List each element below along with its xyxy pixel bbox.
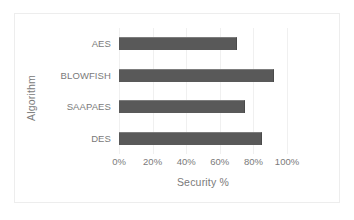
bar — [119, 37, 237, 50]
bar-row — [119, 123, 287, 155]
bar — [119, 132, 262, 145]
y-axis-tick-label: DES — [48, 123, 116, 155]
x-axis-tick-label: 100% — [275, 156, 299, 167]
x-axis-tick-label: 20% — [143, 156, 162, 167]
y-axis-tick-labels: AES BLOWFISH SAAPAES DES — [48, 28, 116, 154]
plot-area — [119, 28, 287, 154]
x-axis-tick-label: 40% — [177, 156, 196, 167]
bar — [119, 100, 245, 113]
x-axis-tick-labels: 0%20%40%60%80%100% — [119, 156, 287, 170]
y-axis-tick-label: AES — [48, 28, 116, 60]
y-axis-tick-label: BLOWFISH — [48, 60, 116, 92]
x-axis-tick-label: 60% — [210, 156, 229, 167]
y-axis-tick-label: SAAPAES — [48, 91, 116, 123]
bar — [119, 69, 274, 82]
x-axis-title: Security % — [119, 176, 287, 188]
bar-row — [119, 60, 287, 92]
x-axis-tick-label: 80% — [244, 156, 263, 167]
bar-chart: Algorithm AES BLOWFISH SAAPAES DES 0%20%… — [0, 0, 354, 220]
bar-row — [119, 91, 287, 123]
y-axis-title: Algorithm — [25, 48, 41, 148]
bar-series — [119, 28, 287, 154]
x-axis-tick-label: 0% — [112, 156, 126, 167]
bar-row — [119, 28, 287, 60]
